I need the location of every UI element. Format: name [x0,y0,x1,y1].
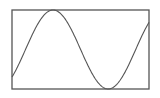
sine-curve [12,10,149,89]
sine-chart [0,0,160,98]
